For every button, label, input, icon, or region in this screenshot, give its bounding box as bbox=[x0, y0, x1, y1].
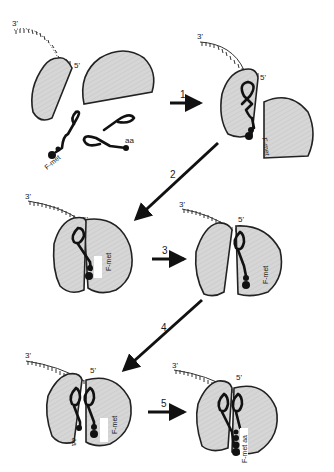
panel-p-a-sites: 3' 5' aa F-met bbox=[25, 351, 131, 446]
step-5-label: 5 bbox=[161, 398, 167, 409]
label-5prime: 5' bbox=[90, 366, 96, 375]
label-fmet: F-met bbox=[262, 266, 269, 284]
peptide-chain: F-met aa bbox=[232, 428, 248, 466]
panel-peptide-bond: 3' 5' F-met aa bbox=[172, 361, 277, 466]
label-5prime: 5' bbox=[260, 73, 266, 82]
label-fmet: F-met bbox=[105, 253, 112, 271]
label-3prime: 3' bbox=[172, 361, 178, 370]
step-1-label: 1 bbox=[180, 89, 186, 100]
small-subunit bbox=[197, 381, 232, 451]
label-3prime: 3' bbox=[12, 19, 18, 28]
label-3prime: 3' bbox=[197, 32, 203, 41]
large-subunit bbox=[264, 98, 313, 158]
step-2-label: 2 bbox=[170, 169, 176, 180]
trna-aa: aa bbox=[84, 115, 134, 151]
label-fmet-aa: F-met aa bbox=[241, 435, 248, 463]
panel-70s-complex: 3' 5' F-met bbox=[25, 192, 132, 293]
step-4-label: 4 bbox=[161, 322, 167, 333]
panel-30s-complex: 3' 5' F-met bbox=[197, 32, 313, 158]
step-2-arrow: 2 bbox=[136, 143, 218, 219]
label-5prime: 5' bbox=[74, 61, 80, 70]
panel-opened-complex: 3' 5' F-met bbox=[179, 200, 282, 296]
label-5prime: 5' bbox=[236, 373, 242, 382]
trna-fmet: F-met bbox=[43, 112, 79, 171]
step-3-arrow: 3 bbox=[152, 245, 184, 259]
label-3prime: 3' bbox=[25, 192, 31, 201]
label-5prime: 5' bbox=[238, 215, 244, 224]
small-subunit bbox=[47, 374, 82, 444]
large-subunit bbox=[83, 51, 154, 104]
label-fmet: F-met bbox=[111, 416, 118, 434]
step-3-label: 3 bbox=[162, 245, 168, 256]
step-4-arrow: 4 bbox=[124, 300, 202, 370]
step-1-arrow: 1 bbox=[170, 89, 200, 103]
small-subunit bbox=[32, 58, 72, 120]
small-subunit bbox=[196, 223, 232, 296]
label-aa: aa bbox=[71, 438, 78, 446]
label-3prime: 3' bbox=[179, 200, 185, 209]
translation-initiation-diagram: 3' 5' F-met aa 1 3' 5' bbox=[0, 0, 334, 472]
panel-free-components: 3' 5' F-met aa bbox=[12, 19, 154, 171]
label-3prime: 3' bbox=[25, 351, 31, 360]
label-aa: aa bbox=[125, 136, 134, 145]
step-5-arrow: 5 bbox=[148, 398, 184, 412]
